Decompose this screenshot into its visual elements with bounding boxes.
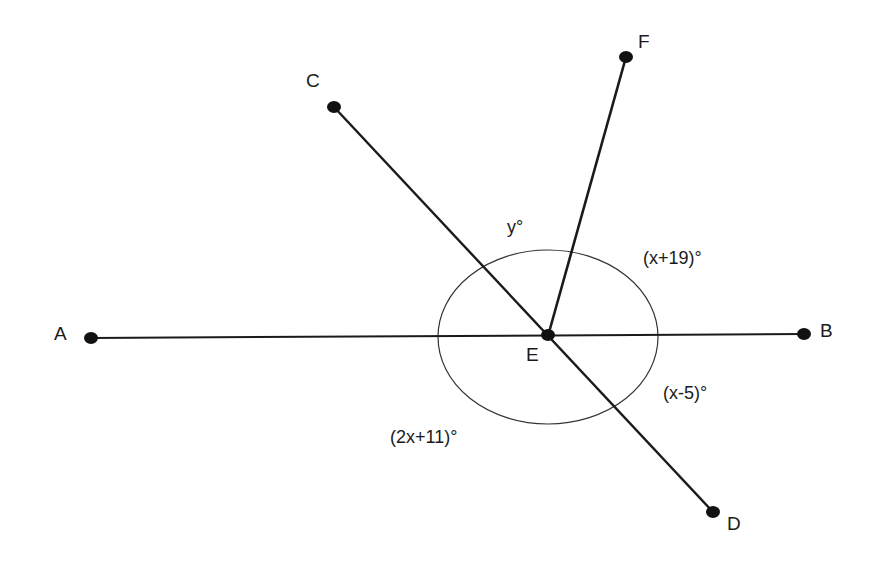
point-A-dot (84, 332, 98, 344)
angle-label-2x-plus-11: (2x+11)° (390, 427, 457, 447)
line-CD (334, 107, 713, 512)
angle-label-y: y° (507, 217, 523, 237)
point-F-dot (619, 51, 633, 63)
point-B-dot (797, 328, 811, 340)
ray-EF (548, 57, 626, 336)
point-D-label: D (727, 513, 741, 534)
point-D-dot (706, 506, 720, 518)
point-E-label: E (526, 344, 539, 365)
angle-label-x-plus-19: (x+19)° (643, 248, 702, 268)
geometry-diagram: A B C D E F y° (x+19)° (x-5)° (2x+11)° (0, 0, 879, 562)
point-B-label: B (820, 320, 833, 341)
line-AB (91, 334, 804, 338)
point-C-dot (327, 101, 341, 113)
point-A-label: A (54, 323, 67, 344)
angle-label-x-minus-5: (x-5)° (663, 383, 707, 403)
point-C-label: C (306, 70, 320, 91)
point-F-label: F (638, 31, 650, 52)
point-E-dot (541, 329, 555, 341)
